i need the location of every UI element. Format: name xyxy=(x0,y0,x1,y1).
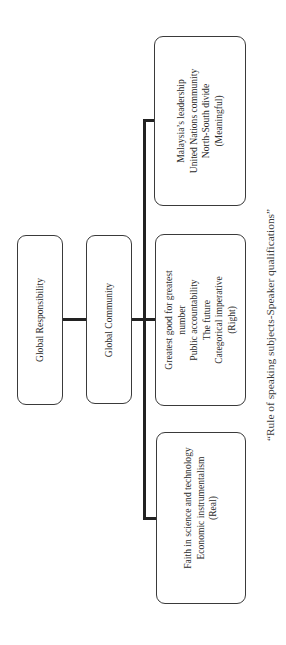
node-global-responsibility-label: Global Responsibility xyxy=(34,278,47,362)
node-global-community-label: Global Community xyxy=(103,282,116,356)
node-meaningful-label: Malaysia’s leadership United Nations com… xyxy=(175,69,225,173)
node-right-line-5: Categorical imperative xyxy=(213,270,226,369)
node-right-line-4: The future xyxy=(201,270,214,369)
node-right: Greatest good for greatest number Public… xyxy=(155,234,246,406)
node-right-label: Greatest good for greatest number Public… xyxy=(163,270,239,369)
connector-branch-meaningful xyxy=(143,119,154,122)
node-real-line-3: (Real) xyxy=(207,447,220,569)
node-right-line-6: (Right) xyxy=(226,270,239,369)
connector-root-to-community xyxy=(63,318,86,321)
node-meaningful: Malaysia’s leadership United Nations com… xyxy=(154,36,246,206)
node-real-line-2: Economic instrumentalism xyxy=(195,447,208,569)
node-right-line-2: number xyxy=(175,270,188,369)
node-meaningful-line-2: United Nations community xyxy=(187,69,200,173)
node-meaningful-line-3: North-South divide xyxy=(200,69,213,173)
node-real-line-1: Faith in science and technology xyxy=(182,447,195,569)
connector-branch-right xyxy=(143,318,155,321)
node-global-responsibility: Global Responsibility xyxy=(17,235,63,405)
figure-caption: “Rule of speaking subjects-Speaker quali… xyxy=(264,209,276,441)
node-real: Faith in science and technology Economic… xyxy=(156,432,246,604)
node-right-line-1: Greatest good for greatest xyxy=(163,270,176,369)
node-global-community: Global Community xyxy=(86,235,132,404)
node-real-label: Faith in science and technology Economic… xyxy=(182,447,220,569)
node-meaningful-line-4: (Meaningful) xyxy=(213,69,226,173)
node-right-line-3: Public accountability xyxy=(188,270,201,369)
connector-branch-real xyxy=(143,517,156,520)
node-meaningful-line-1: Malaysia’s leadership xyxy=(175,69,188,173)
